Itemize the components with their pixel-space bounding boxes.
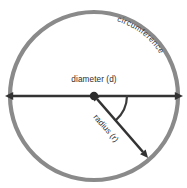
diagram-canvas: circumference diameter (d) radius (r) bbox=[0, 0, 187, 188]
angle-arc bbox=[116, 96, 127, 120]
circumference-label: circumference bbox=[116, 15, 166, 56]
radius-label: radius (r) bbox=[91, 113, 120, 145]
diameter-label: diameter (d) bbox=[71, 75, 117, 84]
circumference-label-text: circumference bbox=[116, 15, 166, 56]
circle-diagram-figure: circumference diameter (d) radius (r) bbox=[0, 0, 187, 188]
center-point-dot bbox=[90, 92, 98, 100]
